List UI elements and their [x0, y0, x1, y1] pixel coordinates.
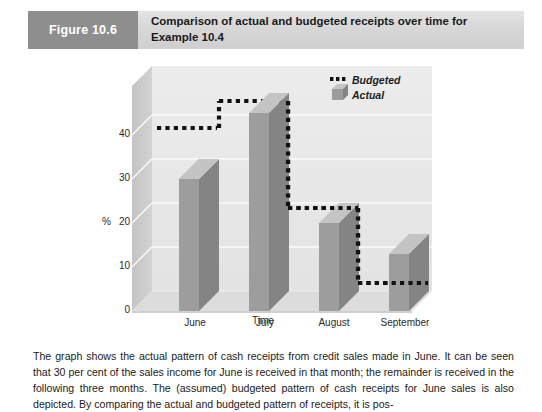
legend-label-actual: Actual	[352, 89, 384, 101]
y-tick-30: 30	[104, 172, 130, 183]
legend-label-budgeted: Budgeted	[352, 74, 400, 86]
x-tick-august: August	[306, 317, 362, 328]
bar-august	[319, 203, 359, 311]
figure-number-box: Figure 10.6	[28, 11, 138, 49]
figure-number-label: Figure 10.6	[49, 23, 117, 37]
chart-3d-bar-plot	[0, 55, 542, 330]
y-tick-0: 0	[104, 304, 130, 315]
figure-title: Comparison of actual and budgeted receip…	[151, 14, 516, 45]
plot-left-wall	[132, 66, 152, 311]
y-tick-40: 40	[104, 128, 130, 139]
y-tick-10: 10	[104, 260, 130, 271]
y-axis-title: %	[102, 216, 111, 227]
figure-header: Figure 10.6 Comparison of actual and bud…	[28, 11, 524, 49]
figure-title-box: Comparison of actual and budgeted receip…	[138, 11, 524, 49]
body-paragraph: The graph shows the actual pattern of ca…	[33, 348, 514, 412]
chart-figure: Budgeted Actual 0 10 20 30 40 % June Jul…	[0, 55, 542, 330]
x-tick-september: September	[371, 317, 439, 328]
x-tick-june: June	[170, 317, 220, 328]
x-axis-title: Time	[252, 315, 274, 326]
bar-june	[179, 159, 219, 311]
bar-july	[249, 93, 289, 311]
